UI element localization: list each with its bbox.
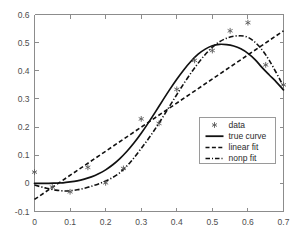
chart-legend: datatrue curvelinear fitnonp fit bbox=[200, 118, 276, 164]
x-tick-label: 0.7 bbox=[278, 217, 290, 227]
y-tick-label: 0 bbox=[25, 178, 30, 188]
legend-label: true curve bbox=[229, 131, 267, 141]
x-tick-label: 0.5 bbox=[206, 217, 218, 227]
scatter-plot: 00.10.20.30.40.50.60.7 -0.100.10.20.30.4… bbox=[0, 0, 298, 241]
x-tick-label: 0.6 bbox=[242, 217, 254, 227]
x-tick-label: 0.1 bbox=[64, 217, 76, 227]
y-tick-label: 0.2 bbox=[18, 122, 30, 132]
y-tick-label: 0.4 bbox=[18, 66, 30, 76]
x-tick-label: 0.2 bbox=[100, 217, 112, 227]
x-tick-label: 0.3 bbox=[135, 217, 147, 227]
y-tick-label: -0.1 bbox=[15, 207, 30, 217]
y-tick-label: 0.3 bbox=[18, 94, 30, 104]
legend-label: data bbox=[229, 120, 246, 130]
y-tick-label: 0.5 bbox=[18, 38, 30, 48]
legend-label: linear fit bbox=[229, 142, 259, 152]
chart-figure: 00.10.20.30.40.50.60.7 -0.100.10.20.30.4… bbox=[0, 0, 298, 241]
legend-label: nonp fit bbox=[229, 153, 258, 163]
x-tick-label: 0.4 bbox=[171, 217, 183, 227]
x-tick-label: 0 bbox=[32, 217, 37, 227]
y-tick-label: 0.1 bbox=[18, 150, 30, 160]
y-tick-label: 0.6 bbox=[18, 10, 30, 20]
